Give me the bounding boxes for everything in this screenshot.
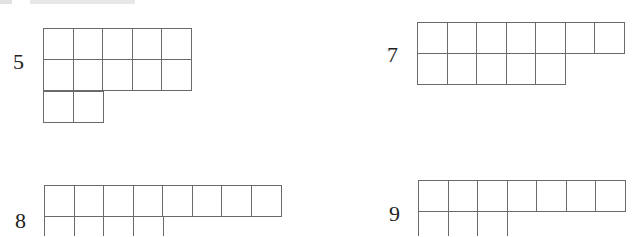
grid-row xyxy=(44,185,282,217)
grid-cell xyxy=(447,53,478,85)
grid-cell xyxy=(74,216,105,237)
grid-cell xyxy=(192,185,223,217)
figure-label: 8 xyxy=(15,210,26,232)
grid-cell xyxy=(161,59,192,91)
grid-row xyxy=(43,28,192,60)
grid-cell xyxy=(103,216,134,237)
grid-cell xyxy=(535,22,566,54)
grid-cell xyxy=(133,216,164,237)
grid-cell xyxy=(535,53,566,85)
grid-cell xyxy=(102,59,133,91)
grid-cell xyxy=(418,211,449,237)
figure-label: 5 xyxy=(13,51,24,73)
grid-cell xyxy=(221,185,252,217)
grid-cell xyxy=(536,180,567,212)
grid-cell xyxy=(73,28,104,60)
grid-cell xyxy=(595,180,626,212)
grid-cell xyxy=(161,28,192,60)
figure-label: 7 xyxy=(387,44,398,66)
square-grid xyxy=(44,185,282,236)
grid-row xyxy=(43,60,192,92)
grid-row xyxy=(418,212,626,236)
grid-cell xyxy=(103,185,134,217)
grid-cell xyxy=(73,91,104,123)
grid-cell xyxy=(594,22,625,54)
square-grid xyxy=(417,22,625,86)
grid-cell xyxy=(507,180,538,212)
grid-cell xyxy=(506,53,537,85)
grid-row xyxy=(417,54,625,86)
square-grid xyxy=(418,180,626,236)
grid-cell xyxy=(44,216,75,237)
grid-cell xyxy=(448,180,479,212)
grid-row xyxy=(417,22,625,54)
grid-cell xyxy=(447,22,478,54)
grid-cell xyxy=(44,185,75,217)
cut-off-header-text xyxy=(0,0,637,4)
grid-cell xyxy=(448,211,479,237)
grid-cell xyxy=(417,22,448,54)
grid-cell xyxy=(43,59,74,91)
grid-cell xyxy=(43,28,74,60)
grid-cell xyxy=(566,180,597,212)
grid-row xyxy=(418,180,626,212)
square-grid xyxy=(43,28,192,124)
grid-cell xyxy=(102,28,133,60)
grid-cell xyxy=(133,185,164,217)
grid-cell xyxy=(417,53,448,85)
grid-cell xyxy=(251,185,282,217)
grid-cell xyxy=(73,59,104,91)
grid-cell xyxy=(132,28,163,60)
grid-cell xyxy=(476,22,507,54)
grid-cell xyxy=(565,22,596,54)
figure-label: 9 xyxy=(389,203,400,225)
grid-cell xyxy=(418,180,449,212)
grid-cell xyxy=(132,59,163,91)
grid-row xyxy=(43,92,192,124)
grid-row xyxy=(44,217,282,236)
grid-cell xyxy=(477,180,508,212)
grid-cell xyxy=(162,185,193,217)
grid-cell xyxy=(43,91,74,123)
grid-cell xyxy=(506,22,537,54)
grid-cell xyxy=(74,185,105,217)
grid-cell xyxy=(477,211,508,237)
grid-cell xyxy=(476,53,507,85)
